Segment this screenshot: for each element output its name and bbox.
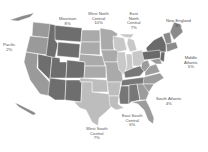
state-colorado [66,60,85,78]
state-arkansas [107,82,121,96]
label-pacific: Pacific 2% [3,43,15,52]
state-wyoming [57,42,80,58]
label-ma-value: 5% [184,65,198,70]
label-ne-value: 8% [166,24,191,29]
state-wisconsin [113,36,127,52]
label-east-north-central: East North Central 7% [127,12,141,30]
label-middle-atlantic: Middle Atlantic 5% [184,56,198,70]
state-new-jersey [160,52,165,62]
state-utah [50,57,67,78]
state-alaska [10,13,34,21]
label-wnc-value: 10% [88,21,109,26]
label-mountain: Mountain 8% [59,17,76,26]
label-west-south-central: West South Central 7% [86,127,108,141]
label-east-south-central: East South Central 6% [122,114,143,128]
region-middle-atlantic [142,36,166,62]
state-pennsylvania [142,50,161,60]
label-enc-value: 7% [127,26,141,31]
state-mississippi [119,86,129,104]
state-hawaii [15,103,36,115]
label-south-atlantic: South Atlantic 4% [156,97,182,106]
state-south-dakota [80,42,100,55]
state-kansas [84,66,106,78]
state-new-mexico [65,80,82,102]
label-pacific-value: 2% [3,48,15,53]
state-massachusetts-ct-ri [166,42,178,52]
label-sa-value: 4% [156,102,182,107]
label-mountain-value: 8% [59,22,76,27]
us-census-division-map: Pacific 2% Mountain 8% West North Centra… [0,0,208,152]
label-west-north-central: West North Central 10% [88,12,109,26]
state-montana [52,25,82,42]
label-esc-value: 6% [122,123,143,128]
state-arizona [48,78,66,100]
state-north-dakota [81,30,100,42]
label-new-england: New England 8% [166,19,191,28]
label-wsc-value: 7% [86,136,108,141]
region-west-north-central [79,28,123,82]
